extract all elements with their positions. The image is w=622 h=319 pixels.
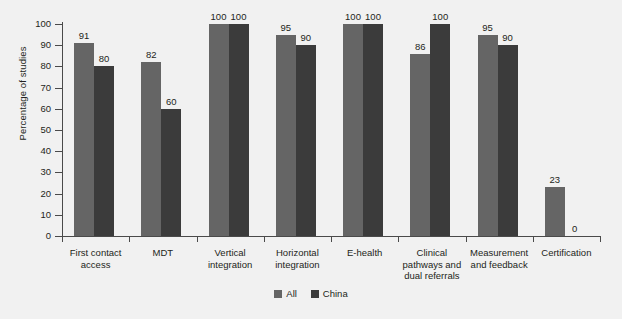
x-tick: [62, 236, 63, 242]
bar-chart-figure: Percentage of studies 100908070605040302…: [0, 0, 622, 319]
bar-value-label: 90: [496, 33, 520, 43]
bar-all: [74, 43, 94, 236]
y-tick-label-90: 90: [10, 40, 51, 50]
bar-group: 9180: [62, 24, 129, 236]
bar-china: [94, 66, 114, 236]
chart-legend: AllChina: [0, 288, 622, 299]
x-tick: [197, 236, 198, 242]
y-tick-0: [55, 236, 62, 237]
y-tick-label-10: 10: [10, 210, 51, 220]
plot-area: 918082601001009590100100861009590230: [62, 24, 600, 236]
bar-value-label: 0: [563, 224, 587, 234]
y-tick-40: [55, 151, 62, 152]
y-tick-label-0: 0: [10, 231, 51, 241]
bar-all: [478, 35, 498, 236]
bar-value-label: 100: [361, 12, 385, 22]
legend-swatch-icon: [311, 290, 319, 298]
bar-china: [430, 24, 450, 236]
bar-group: 100100: [331, 24, 398, 236]
y-tick-90: [55, 45, 62, 46]
y-tick-label-20: 20: [10, 189, 51, 199]
bar-all: [276, 35, 296, 236]
x-tick: [398, 236, 399, 242]
x-tick: [264, 236, 265, 242]
x-tick: [129, 236, 130, 242]
y-tick-10: [55, 215, 62, 216]
bar-value-label: 80: [92, 54, 116, 64]
y-tick-80: [55, 66, 62, 67]
y-tick-label-80: 80: [10, 61, 51, 71]
bar-all: [410, 54, 430, 236]
legend-swatch-icon: [274, 290, 282, 298]
bar-group: 100100: [197, 24, 264, 236]
bar-value-label: 100: [227, 12, 251, 22]
bar-china: [363, 24, 383, 236]
y-tick-label-30: 30: [10, 167, 51, 177]
bar-china: [296, 45, 316, 236]
bar-value-label: 95: [274, 23, 298, 33]
y-tick-label-100: 100: [10, 19, 51, 29]
bar-china: [498, 45, 518, 236]
y-tick-label-50: 50: [10, 125, 51, 135]
bar-all: [545, 187, 565, 236]
y-tick-100: [55, 24, 62, 25]
x-category-label-line: and feedback: [456, 259, 542, 271]
bar-group: 230: [533, 24, 600, 236]
x-category-label-line: dual referrals: [389, 270, 475, 282]
x-category-label-line: access: [53, 259, 139, 271]
y-tick-60: [55, 109, 62, 110]
bar-group: 9590: [264, 24, 331, 236]
bar-value-label: 23: [543, 175, 567, 185]
legend-label: All: [286, 288, 297, 299]
bar-value-label: 90: [294, 33, 318, 43]
legend-item[interactable]: China: [311, 288, 348, 299]
x-tick: [600, 236, 601, 242]
y-tick-50: [55, 130, 62, 131]
x-category-label: Certification: [523, 247, 609, 259]
y-tick-label-70: 70: [10, 83, 51, 93]
x-tick: [533, 236, 534, 242]
bar-all: [141, 62, 161, 236]
bar-value-label: 91: [72, 31, 96, 41]
bar-china: [229, 24, 249, 236]
x-tick: [466, 236, 467, 242]
bar-china: [161, 109, 181, 236]
bar-value-label: 100: [428, 12, 452, 22]
bar-group: 9590: [466, 24, 533, 236]
y-tick-20: [55, 194, 62, 195]
y-tick-label-60: 60: [10, 104, 51, 114]
y-tick-label-40: 40: [10, 146, 51, 156]
bar-value-label: 82: [139, 50, 163, 60]
legend-item[interactable]: All: [274, 288, 297, 299]
x-category-label-line: Certification: [523, 247, 609, 259]
y-tick-70: [55, 88, 62, 89]
bar-value-label: 86: [408, 42, 432, 52]
x-tick: [331, 236, 332, 242]
y-tick-30: [55, 172, 62, 173]
x-category-label-line: integration: [254, 259, 340, 271]
bar-group: 86100: [398, 24, 465, 236]
legend-label: China: [323, 288, 348, 299]
bar-value-label: 95: [476, 23, 500, 33]
bar-all: [343, 24, 363, 236]
bar-value-label: 60: [159, 97, 183, 107]
bar-group: 8260: [129, 24, 196, 236]
bar-all: [209, 24, 229, 236]
